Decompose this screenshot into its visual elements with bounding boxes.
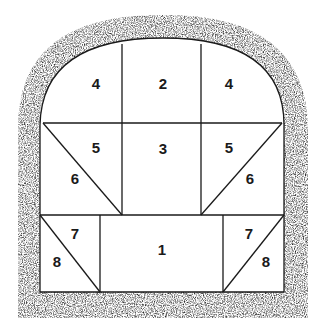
section-label-4-right: 4 — [225, 75, 234, 92]
rock-lining — [18, 15, 308, 318]
section-label-7-left: 7 — [71, 225, 79, 242]
tunnel-cross-section-diagram: 1 2 3 4 4 5 5 6 6 7 7 8 8 — [0, 0, 321, 334]
section-label-2: 2 — [159, 75, 167, 92]
section-label-5-right: 5 — [225, 139, 233, 156]
section-label-1: 1 — [158, 241, 166, 258]
section-label-5-left: 5 — [92, 139, 100, 156]
section-label-6-left: 6 — [71, 170, 79, 187]
section-label-7-right: 7 — [245, 225, 253, 242]
section-label-8-right: 8 — [262, 253, 270, 270]
section-label-6-right: 6 — [246, 170, 254, 187]
section-label-3: 3 — [159, 140, 167, 157]
section-label-4-left: 4 — [92, 75, 101, 92]
section-label-8-left: 8 — [53, 253, 61, 270]
